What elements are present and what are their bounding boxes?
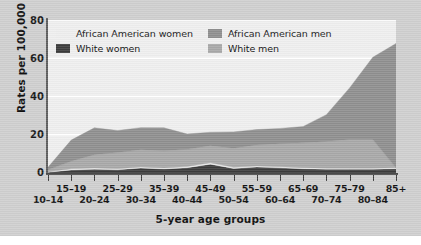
legend-label-african-american-women: African American women [76,28,193,39]
x-tick-mark [280,175,281,181]
legend-swatch-icon-white-men [208,44,222,53]
y-tick-40: 40 [20,92,44,102]
x-tick-mark [350,175,351,181]
x-tick-label-45-49: 45–49 [195,183,225,194]
legend-swatch-icon-african-american-women [56,29,70,38]
legend-label-african-american-men: African American men [228,28,331,39]
x-tick-label-35-39: 35–39 [149,183,179,194]
x-tick-label-40-44: 40–44 [172,194,202,205]
x-tick-label-80-84: 80–84 [358,194,388,205]
legend-item-white-women: White women [56,42,193,55]
x-tick-mark [234,175,235,181]
legend-swatch-icon-white-women [56,44,70,53]
x-tick-mark [118,175,119,181]
y-tick-80: 80 [20,16,44,26]
legend-item-white-men: White men [208,42,331,55]
figure-panel: Rates per 100,000 80 60 40 20 0 African … [0,0,421,245]
x-tick-mark [326,175,327,181]
y-axis-line [46,18,48,175]
legend-item-african-american-men: African American men [208,27,331,40]
x-axis-tick-labels: 10–1415–1920–2425–2930–3435–3940–4445–49… [0,183,421,209]
x-tick-mark [141,175,142,181]
x-tick-label-15-19: 15–19 [56,183,86,194]
x-axis-ticks [0,175,421,182]
x-tick-label-65-69: 65–69 [288,183,318,194]
x-tick-label-10-14: 10–14 [33,194,63,205]
chart-legend: African American women White women Afric… [56,27,366,57]
y-tick-60: 60 [20,54,44,64]
x-tick-mark [164,175,165,181]
legend-column-right: African American men White men [208,27,331,57]
x-tick-label-50-54: 50–54 [218,194,248,205]
x-tick-label-85+: 85+ [386,183,407,194]
x-tick-mark [48,175,49,181]
x-tick-label-70-74: 70–74 [311,194,341,205]
legend-label-white-men: White men [228,43,279,54]
x-tick-label-20-24: 20–24 [79,194,109,205]
x-tick-mark [94,175,95,181]
x-tick-label-60-64: 60–64 [265,194,295,205]
legend-item-african-american-women: African American women [56,27,193,40]
x-tick-label-25-29: 25–29 [102,183,132,194]
x-axis-title: 5-year age groups [0,213,421,225]
y-tick-20: 20 [20,130,44,140]
x-tick-mark [257,175,258,181]
x-tick-label-30-34: 30–34 [126,194,156,205]
x-tick-mark [303,175,304,181]
legend-label-white-women: White women [76,43,140,54]
x-tick-mark [187,175,188,181]
x-tick-label-75-79: 75–79 [334,183,364,194]
legend-swatch-icon-african-american-men [208,29,222,38]
area-series-group [48,44,396,173]
x-tick-mark [373,175,374,181]
x-tick-label-55-59: 55–59 [242,183,272,194]
legend-column-left: African American women White women [56,27,193,57]
x-tick-mark [210,175,211,181]
x-tick-mark [396,175,397,181]
x-tick-mark [71,175,72,181]
